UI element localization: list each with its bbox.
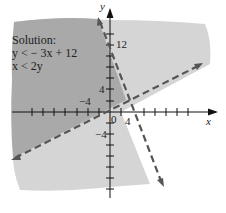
x-tick-label-4: 4 [125,116,131,127]
x-axis-label: x [206,116,211,127]
x-tick-label-neg4: −4 [79,96,91,107]
y-axis-label: y [100,1,105,12]
origin-label: 0 [111,114,117,125]
y-tick-label-12: 12 [116,39,127,50]
inequality-graph [0,0,226,213]
y-tick-label-4: 4 [99,84,105,95]
y-tick-label-neg4: −4 [95,129,107,140]
solution-legend: Solution: y < − 3x + 12 x < 2y [12,34,77,73]
boundary1-arrow-bottom-icon [157,178,164,187]
y-axis-arrow-icon [107,8,114,18]
legend-inequality-2: x < 2y [12,60,77,73]
